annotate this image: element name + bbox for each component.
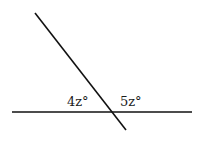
angle-label-right: 5z°	[120, 94, 142, 109]
diagram-canvas: 4z° 5z°	[0, 0, 200, 143]
angle-label-left: 4z°	[67, 94, 89, 109]
